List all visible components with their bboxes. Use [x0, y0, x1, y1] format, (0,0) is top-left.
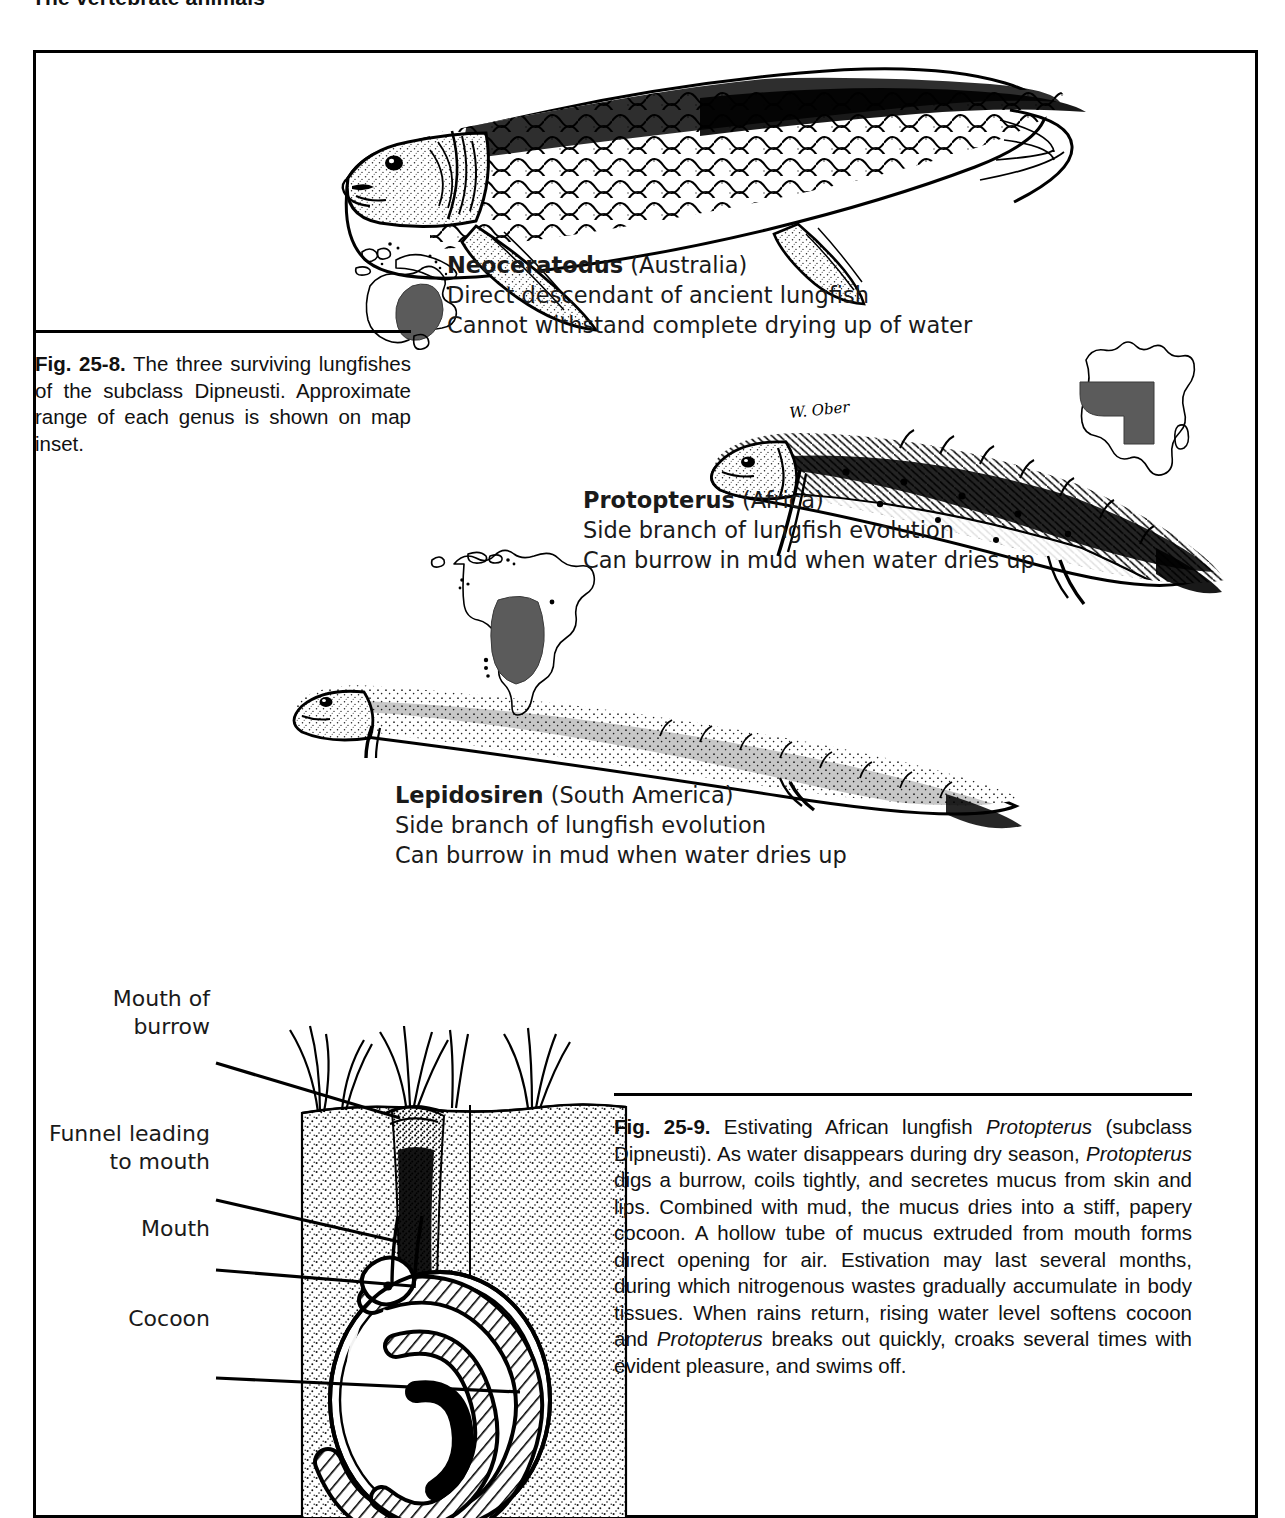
caption-rule	[35, 330, 411, 333]
species-label-lepidosiren: Lepidosiren (South America) Side branch …	[395, 780, 847, 870]
fig-25-9-caption-text: Fig. 25-9. Estivating African lungfish P…	[614, 1114, 1192, 1379]
fig-25-9-italic2: Protopterus	[1086, 1142, 1192, 1165]
callout-cocoon: Cocoon	[60, 1305, 210, 1333]
callout-cocoon-line1: Cocoon	[60, 1305, 210, 1333]
neoceratodus-line2: Direct descendant of ancient lungfish	[447, 280, 972, 310]
south-america-map-inset	[432, 550, 595, 715]
fig-25-9-part3: digs a burrow, coils tightly, and secret…	[614, 1168, 1192, 1350]
fig-25-8-caption: Fig. 25-8. The three surviving lungfishe…	[35, 330, 411, 457]
fig-25-9-italic3: Protopterus	[657, 1327, 763, 1350]
callout-mouth-of-burrow-line2: burrow	[50, 1013, 210, 1041]
species-label-neoceratodus: Neoceratodus (Australia) Direct descenda…	[447, 250, 972, 340]
callout-funnel-line2: to mouth	[10, 1148, 210, 1176]
protopterus-headline: Protopterus (Africa)	[583, 485, 1035, 515]
neoceratodus-line3: Cannot withstand complete drying up of w…	[447, 310, 972, 340]
lepidosiren-genus: Lepidosiren	[395, 782, 543, 808]
africa-map-inset	[1080, 342, 1194, 475]
protopterus-genus: Protopterus	[583, 487, 735, 513]
neoceratodus-region: (Australia)	[630, 252, 747, 278]
fig-25-9-caption: Fig. 25-9. Estivating African lungfish P…	[614, 1093, 1192, 1379]
callout-mouth-of-burrow-line1: Mouth of	[50, 985, 210, 1013]
artist-signature: W. Ober	[789, 398, 852, 422]
lepidosiren-region: (South America)	[551, 782, 734, 808]
protopterus-line3: Can burrow in mud when water dries up	[583, 545, 1035, 575]
lepidosiren-headline: Lepidosiren (South America)	[395, 780, 847, 810]
neoceratodus-genus: Neoceratodus	[447, 252, 623, 278]
fig-25-8-caption-text: Fig. 25-8. The three surviving lungfishe…	[35, 351, 411, 457]
fig-25-9-number: Fig. 25-9.	[614, 1115, 711, 1138]
species-label-protopterus: Protopterus (Africa) Side branch of lung…	[583, 485, 1035, 575]
callout-funnel-leading-to-mouth: Funnel leading to mouth	[10, 1120, 210, 1176]
callout-mouth: Mouth	[60, 1215, 210, 1243]
fig-25-8-number: Fig. 25-8.	[35, 352, 126, 375]
neoceratodus-headline: Neoceratodus (Australia)	[447, 250, 972, 280]
caption-rule-2	[614, 1093, 1192, 1096]
protopterus-region: (Africa)	[742, 487, 824, 513]
callout-mouth-of-burrow: Mouth of burrow	[50, 985, 210, 1041]
callout-mouth-line1: Mouth	[60, 1215, 210, 1243]
fig-25-9-italic1: Protopterus	[986, 1115, 1092, 1138]
protopterus-line2: Side branch of lungfish evolution	[583, 515, 1035, 545]
lepidosiren-line3: Can burrow in mud when water dries up	[395, 840, 847, 870]
lepidosiren-line2: Side branch of lungfish evolution	[395, 810, 847, 840]
callout-funnel-line1: Funnel leading	[10, 1120, 210, 1148]
fig-25-9-part1: Estivating African lungfish	[711, 1115, 987, 1138]
